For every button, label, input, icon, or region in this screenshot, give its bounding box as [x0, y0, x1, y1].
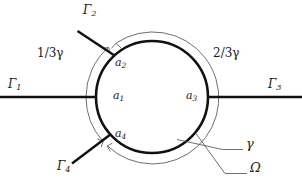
node-label-a-2-subscript: 2 [122, 61, 127, 70]
node-label-a-4: a4 [115, 128, 126, 141]
figure-container: Γ1 Γ2 Γ3 Γ4 a1 a2 a3 a4 1/3γ 2/3γ γ Ω [0, 0, 302, 195]
node-label-a-2: a2 [115, 57, 126, 70]
edge-gamma-4-line [72, 135, 110, 164]
edge-label-gamma-3-subscript: 3 [276, 82, 281, 92]
edge-label-gamma-2: Γ2 [83, 4, 97, 17]
outer-arc-major-arrowhead-top [111, 43, 121, 48]
edge-label-gamma-1-subscript: 1 [16, 82, 21, 92]
arc-label-one-third-gamma: 1/3γ [37, 47, 63, 59]
edge-label-gamma-1: Γ1 [8, 78, 22, 91]
callout-label-omega: Ω [250, 161, 261, 174]
arc-label-two-thirds-gamma: 2/3γ [213, 47, 239, 59]
edge-label-gamma-4-subscript: 4 [65, 164, 70, 174]
node-label-a-4-subscript: 4 [122, 132, 127, 141]
node-label-a-1-subscript: 1 [120, 94, 125, 103]
edge-label-gamma-2-subscript: 2 [91, 8, 96, 18]
node-label-a-3-subscript: 3 [193, 94, 198, 103]
node-label-a-3: a3 [186, 90, 197, 103]
edge-gamma-2-line [78, 31, 115, 55]
edge-label-gamma-3: Γ3 [268, 78, 282, 91]
node-label-a-1: a1 [113, 90, 124, 103]
callout-label-gamma: γ [246, 137, 254, 150]
edge-label-gamma-4: Γ4 [57, 160, 71, 173]
outer-arc-major-arrowhead-bottom [107, 143, 112, 151]
